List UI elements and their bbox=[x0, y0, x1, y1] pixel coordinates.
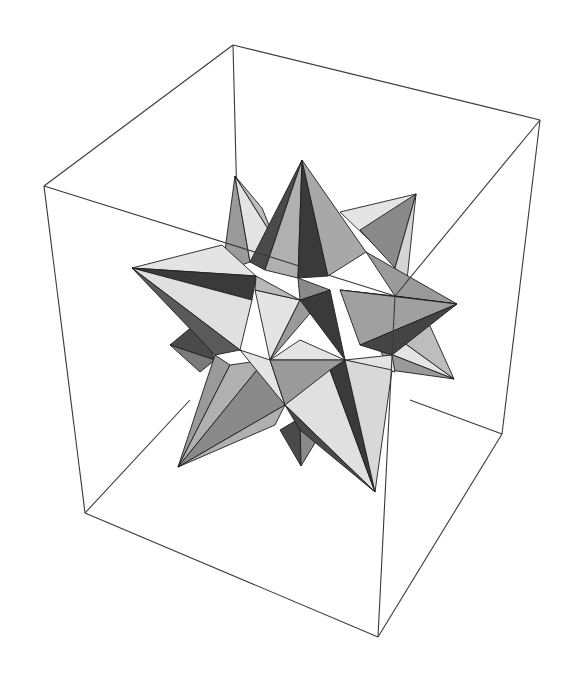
box-edge-bottom-front-right bbox=[378, 434, 502, 637]
box-edge-top-front-right bbox=[395, 120, 540, 296]
face-top-spike-front-left bbox=[265, 160, 302, 278]
box-edge-bottom-front-left bbox=[85, 513, 378, 637]
box-edge-right-vertical bbox=[502, 120, 540, 434]
great-stellated-dodecahedron bbox=[132, 160, 457, 492]
box-edge-top-back-left bbox=[44, 45, 233, 186]
box-edge-bottom-back-left bbox=[85, 400, 190, 513]
bounding-box-back bbox=[44, 45, 540, 637]
box-edge-left-vertical bbox=[44, 186, 85, 513]
polyhedron-figure bbox=[0, 0, 577, 684]
box-edge-bottom-back-right bbox=[410, 400, 502, 434]
box-edge-top-back-right bbox=[233, 45, 540, 120]
